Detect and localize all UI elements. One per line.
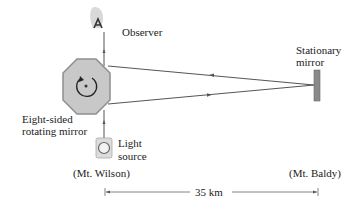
rotating-mirror-label-line1: Eight-sided: [22, 113, 73, 125]
distance-label: 35 km: [195, 186, 223, 198]
stationary-mirror: [314, 70, 320, 101]
stationary-mirror-label-line1: Stationary: [296, 44, 341, 56]
axis-dot-icon: [85, 85, 88, 88]
mt-baldy-label: (Mt. Baldy): [289, 167, 341, 179]
beam-arrow-icon: [103, 49, 106, 53]
mt-wilson-label: (Mt. Wilson): [73, 167, 130, 179]
observer-eye-icon: [90, 7, 103, 28]
stationary-mirror-label-line2: mirror: [296, 56, 324, 68]
light-source-icon: [96, 138, 112, 158]
beam-arrow-right-icon: [207, 93, 212, 97]
observer-label: Observer: [122, 26, 162, 38]
rotating-mirror-label-line2: rotating mirror: [22, 125, 87, 137]
beam-arrow-left-icon: [209, 74, 214, 78]
light-source-label-line2: source: [118, 150, 147, 162]
light-source-label-line1: Light: [118, 137, 142, 149]
